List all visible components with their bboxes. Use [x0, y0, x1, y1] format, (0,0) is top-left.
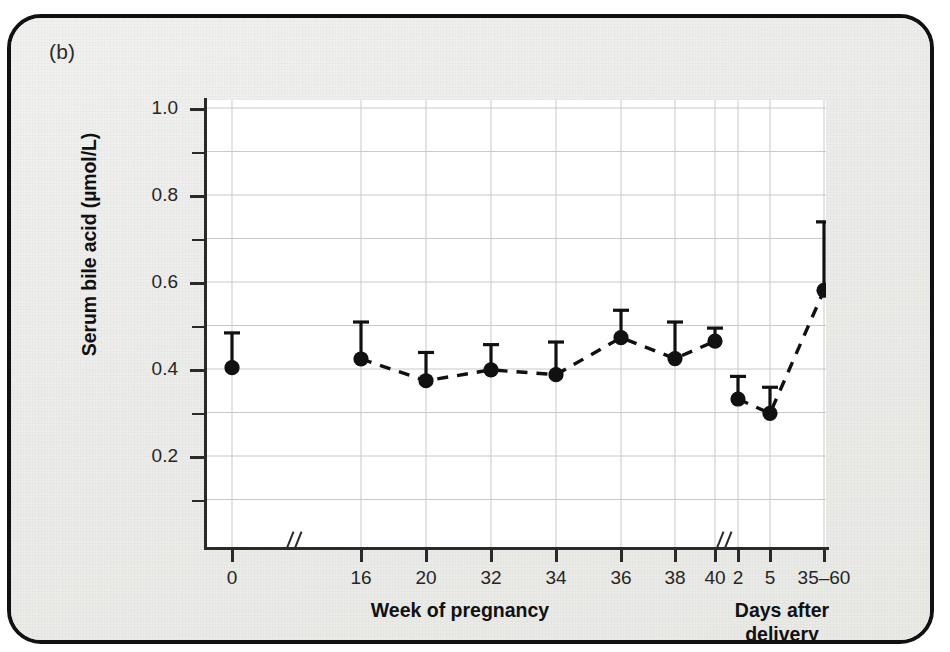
y-tick-label-wrap: 0.4 — [118, 369, 178, 370]
y-tick-label-wrap: 1.0 — [118, 108, 178, 109]
y-axis-title: Serum bile acid (µmol/L) — [78, 85, 101, 405]
x-tick — [555, 549, 558, 562]
x-tick-label: 34 — [545, 567, 566, 589]
figure-panel: (b) Serum bile acid (µmol/L) 0.2 0.4 0.6… — [7, 14, 934, 644]
y-tick-label-wrap: 0.2 — [118, 456, 178, 457]
y-tick-minor — [192, 326, 205, 328]
y-tick-label: 0.8 — [118, 184, 178, 206]
panel-label: (b) — [49, 40, 75, 64]
x-axis-title-weeks: Week of pregnancy — [371, 598, 549, 622]
x-tick-label: 40 — [704, 567, 725, 589]
x-tick-label: 36 — [610, 567, 631, 589]
plot-area — [207, 100, 826, 548]
x-tick-label: 2 — [733, 567, 744, 589]
y-tick-label: 0.2 — [118, 445, 178, 467]
x-tick — [425, 549, 428, 562]
x-tick-label: 35–60 — [798, 567, 851, 589]
x-tick-label: 0 — [227, 567, 238, 589]
y-tick-minor — [192, 152, 205, 154]
y-tick-label: 0.6 — [118, 271, 178, 293]
x-tick-label: 32 — [480, 567, 501, 589]
y-tick-major — [190, 369, 205, 372]
figure-root: (b) Serum bile acid (µmol/L) 0.2 0.4 0.6… — [0, 0, 950, 652]
chart-data-series — [207, 100, 826, 548]
x-tick-label: 38 — [664, 567, 685, 589]
x-tick — [769, 549, 772, 562]
y-tick-minor — [192, 500, 205, 502]
x-axis-title-days: Days after delivery — [697, 598, 867, 644]
x-tick-label: 5 — [765, 567, 776, 589]
axis-break-left — [283, 531, 309, 551]
x-tick — [823, 549, 826, 562]
y-tick-major — [190, 282, 205, 285]
x-tick — [360, 549, 363, 562]
x-tick-label: 16 — [350, 567, 371, 589]
x-tick — [620, 549, 623, 562]
y-tick-label-wrap: 0.6 — [118, 282, 178, 283]
y-tick-label: 0.4 — [118, 358, 178, 380]
y-tick-minor — [192, 239, 205, 241]
x-tick-label: 20 — [415, 567, 436, 589]
y-tick-major — [190, 108, 205, 111]
y-tick-label-wrap: 0.8 — [118, 195, 178, 196]
axis-break-right — [713, 531, 739, 551]
x-tick — [231, 549, 234, 562]
y-axis-line — [204, 98, 207, 550]
x-tick — [490, 549, 493, 562]
x-tick — [674, 549, 677, 562]
y-tick-major — [190, 456, 205, 459]
y-tick-minor — [192, 413, 205, 415]
y-tick-major — [190, 195, 205, 198]
y-tick-label: 1.0 — [118, 97, 178, 119]
